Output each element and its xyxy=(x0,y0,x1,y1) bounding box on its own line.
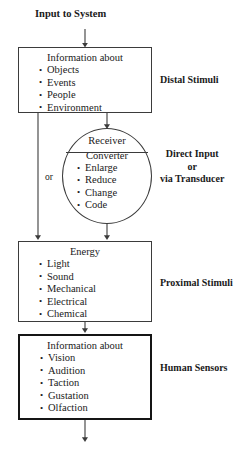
receiver-divider xyxy=(66,152,148,153)
list-item: Taction xyxy=(48,377,150,390)
list-item: Audition xyxy=(48,365,150,378)
stage-label-direct-input-line3: via Transducer xyxy=(160,173,224,186)
converter-subheading: Converter xyxy=(63,147,151,162)
node-proximal-stimuli: Energy Light Sound Mechanical Electrical… xyxy=(18,241,152,322)
list-item: Enlarge xyxy=(85,162,151,174)
list-item: Chemical xyxy=(47,308,151,321)
list-item: Code xyxy=(85,199,151,211)
list-item: Mechanical xyxy=(47,283,151,296)
node-distal-stimuli: Information about Objects Events People … xyxy=(18,47,152,113)
list-item: Electrical xyxy=(47,296,151,309)
list-item: Gustation xyxy=(48,390,150,403)
branch-label-or: or xyxy=(45,172,53,182)
sensors-item-list: Vision Audition Taction Gustation Olfact… xyxy=(20,352,150,415)
proximal-item-list: Light Sound Mechanical Electrical Chemic… xyxy=(19,258,151,321)
list-item: Reduce xyxy=(85,174,151,186)
list-item: Change xyxy=(85,187,151,199)
node-receiver-converter: Receiver Converter Enlarge Reduce Change… xyxy=(62,128,152,224)
list-item: Events xyxy=(47,77,151,90)
list-item: Vision xyxy=(48,352,150,365)
list-item: Sound xyxy=(47,271,151,284)
list-item: Environment xyxy=(47,102,151,115)
stage-label-direct-input: Direct Input or via Transducer xyxy=(160,148,224,186)
list-item: Objects xyxy=(47,64,151,77)
distal-heading: Information about xyxy=(19,48,151,64)
list-item: People xyxy=(47,89,151,102)
converter-item-list: Enlarge Reduce Change Code xyxy=(63,162,151,212)
node-human-sensors: Information about Vision Audition Tactio… xyxy=(18,334,152,420)
list-item: Light xyxy=(47,258,151,271)
sensors-heading: Information about xyxy=(20,336,150,352)
receiver-heading: Receiver xyxy=(63,129,151,147)
stage-label-distal-stimuli: Distal Stimuli xyxy=(160,74,219,87)
diagram-title: Input to System xyxy=(35,8,106,19)
proximal-heading: Energy xyxy=(19,242,151,258)
stage-label-direct-input-line2: or xyxy=(160,161,224,174)
list-item: Olfaction xyxy=(48,402,150,415)
distal-item-list: Objects Events People Environment xyxy=(19,64,151,114)
stage-label-direct-input-line1: Direct Input xyxy=(160,148,224,161)
stage-label-human-sensors: Human Sensors xyxy=(160,362,228,375)
flowchart-diagram: Input to System Information about Object… xyxy=(0,0,245,462)
stage-label-proximal-stimuli: Proximal Stimuli xyxy=(160,277,233,290)
